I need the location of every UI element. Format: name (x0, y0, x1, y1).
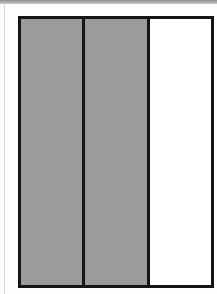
left-edge-line (4, 4, 5, 294)
diagram-canvas (0, 0, 217, 294)
top-edge-strip (0, 0, 217, 4)
part-2-shaded (82, 19, 146, 285)
part-3-unshaded (147, 19, 211, 285)
fraction-rectangle (18, 16, 214, 288)
part-1-shaded (21, 19, 82, 285)
